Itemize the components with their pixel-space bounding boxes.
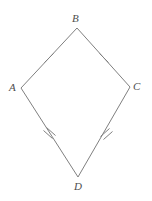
kite-diagram-svg <box>0 0 152 201</box>
vertex-label-b: B <box>72 13 79 24</box>
vertex-label-c: C <box>133 81 140 92</box>
tick-mark-ab-1 <box>45 54 54 63</box>
tick-marks-side-bc <box>100 54 109 63</box>
vertex-label-a: A <box>9 82 16 93</box>
geometry-figure: A B C D <box>0 0 152 201</box>
kite-polygon <box>21 28 130 177</box>
tick-marks-side-ab <box>45 54 54 63</box>
vertex-label-d: D <box>74 181 82 192</box>
tick-mark-bc-1 <box>100 54 109 63</box>
